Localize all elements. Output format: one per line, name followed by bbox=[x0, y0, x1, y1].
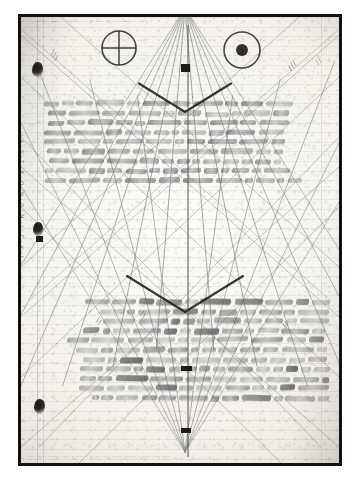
screenshot-root: ··· — ···· — ······ ···· ··· ······· ···… bbox=[0, 0, 360, 491]
scanned-page: ··· — ···· — ······ ···· ··· ······· ···… bbox=[21, 17, 339, 463]
photo-frame: ··· — ···· — ······ ···· ··· ······· ···… bbox=[18, 14, 342, 466]
paper-grain bbox=[21, 17, 339, 463]
